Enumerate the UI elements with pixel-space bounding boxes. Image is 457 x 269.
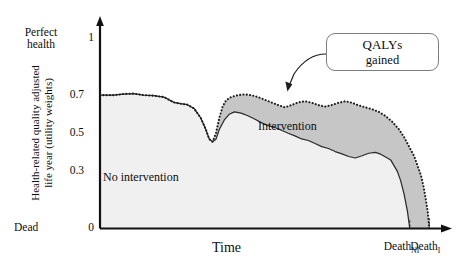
callout-arrow-head	[285, 82, 292, 92]
qaly-chart-figure: Perfect health Dead 1 0.7 0.5 0.3 0 Heal…	[0, 0, 457, 269]
death-i-base: Death	[410, 240, 437, 252]
x-axis-title: Time	[212, 240, 241, 255]
area-label-no-intervention: No intervention	[103, 171, 179, 184]
area-label-intervention: Intervention	[258, 120, 317, 133]
y-tick-label-0-5: 0.5	[58, 126, 84, 138]
x-axis-label-death-i: DeathI	[410, 240, 440, 255]
qalys-gained-callout: QALYs gained	[326, 33, 439, 71]
y-axis-arrowhead	[96, 16, 104, 26]
y-axis-title-line1: Health-related quality adjusted	[29, 65, 41, 201]
callout-line2: gained	[327, 53, 438, 67]
x-axis-arrowhead	[441, 225, 452, 233]
death-i-subscript: I	[438, 246, 441, 255]
y-axis-title: Health-related quality adjusted life yea…	[29, 33, 55, 233]
y-axis-title-line2: life year (utility weights)	[42, 78, 54, 188]
y-tick-label-0: 0	[68, 221, 94, 233]
callout-arrow-curve	[289, 54, 326, 86]
y-tick-label-0-3: 0.3	[58, 164, 84, 176]
death-ni-base: Death	[384, 240, 411, 252]
y-tick-label-1: 1	[68, 31, 94, 43]
y-tick-label-0-7: 0.7	[58, 88, 84, 100]
callout-line1: QALYs	[327, 38, 438, 53]
